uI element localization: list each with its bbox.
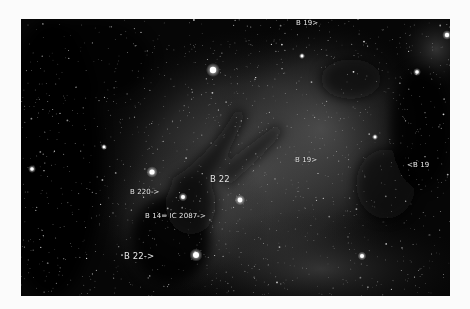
bright-star: [415, 70, 419, 74]
label-b19-right: <B 19: [407, 161, 429, 169]
label-b220: B 220->: [130, 188, 159, 196]
bright-star: [301, 55, 304, 58]
bright-star: [193, 252, 199, 258]
label-b14-ic2087: B 14= IC 2087->: [145, 212, 206, 220]
label-b19-top: B 19>: [296, 19, 318, 27]
bright-star: [374, 136, 377, 139]
label-b22-upper: B 22: [210, 174, 230, 184]
bright-star: [445, 33, 449, 37]
bright-star: [360, 254, 364, 258]
bright-star: [181, 195, 185, 199]
label-b22-lower: B 22->: [124, 251, 154, 261]
astro-photo: B 19>B 19><B 19B 22B 220->B 14= IC 2087-…: [21, 19, 450, 296]
bright-star: [149, 169, 154, 174]
nebula-starfield: [21, 19, 450, 296]
bright-star: [210, 67, 216, 73]
bright-star: [103, 146, 106, 149]
label-b19-center: B 19>: [295, 156, 317, 164]
bright-star: [30, 167, 34, 171]
bright-star: [238, 198, 243, 203]
